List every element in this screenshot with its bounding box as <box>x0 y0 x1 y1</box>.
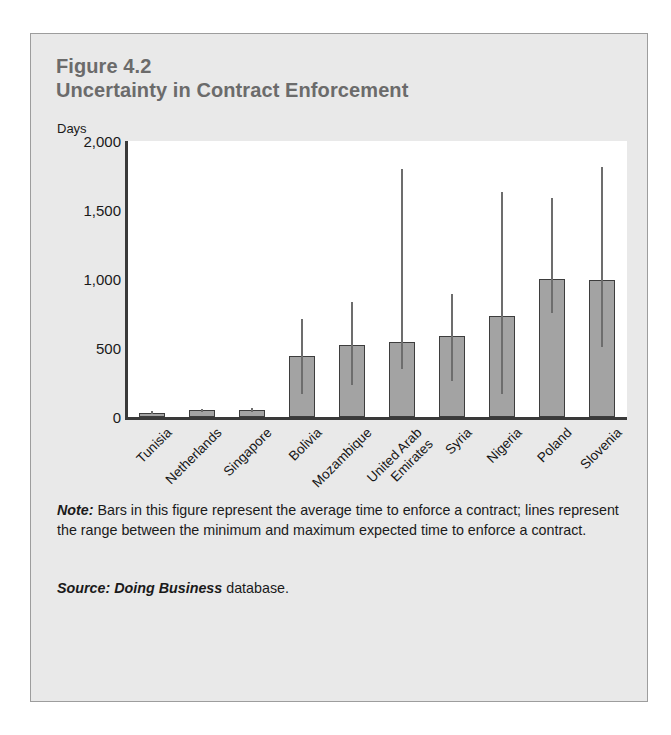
range-line <box>451 294 453 381</box>
range-line <box>401 169 403 369</box>
source-tail: database. <box>222 580 289 596</box>
x-axis-category-label: Poland <box>534 425 575 466</box>
range-line <box>601 167 603 346</box>
y-axis-tick-label: 500 <box>59 340 121 357</box>
chart-plot-region: 05001,0001,5002,000 TunisiaNetherlandsSi… <box>57 141 627 451</box>
figure-note: Note: Bars in this figure represent the … <box>57 500 622 541</box>
y-axis-tick-label: 1,500 <box>59 202 121 219</box>
figure-panel: Figure 4.2 Uncertainty in Contract Enfor… <box>30 33 648 702</box>
figure-source: Source: Doing Business database. <box>57 580 622 596</box>
x-axis-category-label: Bolivia <box>286 425 325 464</box>
y-axis-tick-label: 0 <box>59 409 121 426</box>
range-line <box>551 198 553 313</box>
y-axis-tick-label: 1,000 <box>59 271 121 288</box>
x-axis-line <box>125 417 627 420</box>
x-axis-category-label: Tunisia <box>134 425 175 466</box>
x-axis-category-label: Syria <box>442 425 475 458</box>
y-axis-line <box>125 141 128 418</box>
x-axis-category-label: Slovenia <box>577 425 625 473</box>
range-line <box>351 302 353 385</box>
range-line <box>201 409 203 412</box>
range-line <box>251 408 253 412</box>
source-publication: Doing Business <box>110 580 222 596</box>
figure-title: Uncertainty in Contract Enforcement <box>56 78 616 102</box>
note-text: Bars in this figure represent the averag… <box>57 502 619 538</box>
figure-title-block: Figure 4.2 Uncertainty in Contract Enfor… <box>56 54 616 103</box>
range-line <box>301 319 303 394</box>
y-axis-tick-label: 2,000 <box>59 133 121 150</box>
note-lead: Note: <box>57 502 94 518</box>
source-lead: Source: <box>57 580 110 596</box>
x-axis-category-label: Singapore <box>220 425 275 480</box>
range-line <box>151 411 153 414</box>
x-axis-category-label: Nigeria <box>484 425 525 466</box>
range-line <box>501 192 503 393</box>
figure-number: Figure 4.2 <box>56 54 616 78</box>
